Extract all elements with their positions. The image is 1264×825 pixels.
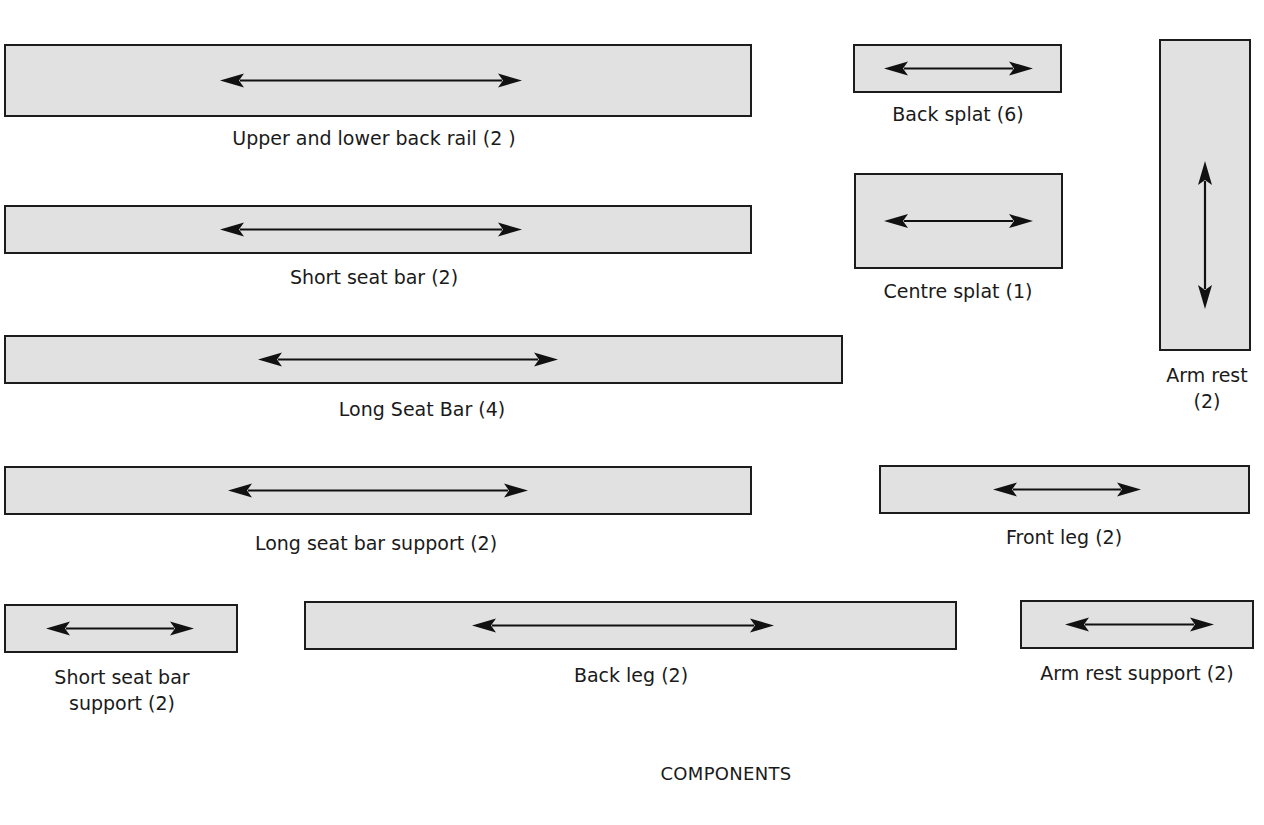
label-line: Short seat bar: [54, 664, 189, 690]
part-label-arm-rest: Arm rest(2): [1166, 362, 1247, 414]
part-label-arm-rest-support: Arm rest support (2): [1040, 660, 1233, 686]
label-line: support (2): [54, 690, 189, 716]
grain-direction-arrow-icon: [856, 175, 1061, 267]
part-label-long-seat-bar: Long Seat Bar (4): [339, 396, 505, 422]
part-label-short-seat-bar: Short seat bar (2): [290, 264, 458, 290]
part-front-leg: [879, 465, 1250, 514]
diagram-caption: COMPONENTS: [660, 763, 791, 784]
label-line: (2): [1166, 388, 1247, 414]
grain-direction-arrow-icon: [6, 606, 236, 651]
grain-direction-arrow-icon: [1161, 41, 1249, 349]
part-label-back-splat: Back splat (6): [892, 101, 1023, 127]
part-label-back-leg: Back leg (2): [574, 662, 688, 688]
part-long-seat-bar-support: [4, 466, 752, 515]
part-back-splat: [853, 44, 1062, 93]
part-arm-rest-support: [1020, 600, 1254, 649]
grain-direction-arrow-icon: [6, 468, 750, 513]
grain-direction-arrow-icon: [6, 337, 841, 382]
part-label-front-leg: Front leg (2): [1006, 524, 1122, 550]
part-upper-lower-back-rail: [4, 44, 752, 117]
grain-direction-arrow-icon: [1022, 602, 1252, 647]
label-line: Arm rest: [1166, 362, 1247, 388]
part-arm-rest: [1159, 39, 1251, 351]
part-short-seat-bar: [4, 205, 752, 254]
grain-direction-arrow-icon: [306, 603, 955, 648]
grain-direction-arrow-icon: [6, 46, 750, 115]
part-long-seat-bar: [4, 335, 843, 384]
grain-direction-arrow-icon: [881, 467, 1248, 512]
part-label-short-seat-bar-support: Short seat barsupport (2): [54, 664, 189, 716]
part-back-leg: [304, 601, 957, 650]
part-short-seat-bar-support: [4, 604, 238, 653]
grain-direction-arrow-icon: [855, 46, 1060, 91]
part-centre-splat: [854, 173, 1063, 269]
part-label-centre-splat: Centre splat (1): [884, 278, 1033, 304]
part-label-upper-lower-back-rail: Upper and lower back rail (2 ): [232, 125, 516, 151]
part-label-long-seat-bar-support: Long seat bar support (2): [255, 530, 497, 556]
grain-direction-arrow-icon: [6, 207, 750, 252]
